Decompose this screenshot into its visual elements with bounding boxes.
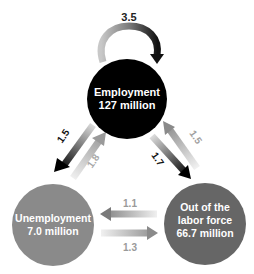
self-loop-arrow: [101, 26, 164, 64]
arrowhead-icon: [100, 207, 111, 221]
node-olf-value: 66.7 million: [176, 227, 233, 239]
node-employment-name: Employment: [94, 86, 160, 98]
flow-label-olf-to-u: 1.1: [123, 198, 137, 209]
flow-label-e-to-u: 1.5: [55, 127, 72, 145]
arrow-unemployment-to-olf: [101, 226, 158, 240]
labor-flow-diagram: 3.5 1.5 1.8 1.7 1.5 1.1 1.3 Employment 1…: [0, 0, 254, 274]
node-out-of-labor-force: Out of the labor force 66.7 million: [164, 183, 246, 265]
arrow-olf-to-unemployment: [100, 207, 157, 221]
node-olf-name-line2: labor force: [178, 214, 232, 226]
node-unemployment: Unemployment 7.0 million: [12, 184, 94, 266]
loop-arrowhead-icon: [150, 54, 164, 64]
flow-label-employment-self: 3.5: [121, 11, 136, 23]
flow-label-olf-to-e: 1.5: [187, 128, 204, 146]
node-employment-value: 127 million: [99, 99, 156, 111]
arrowhead-icon: [147, 226, 158, 240]
node-unemployment-name: Unemployment: [15, 212, 91, 224]
node-unemployment-value: 7.0 million: [27, 225, 78, 237]
flow-label-u-to-olf: 1.3: [123, 242, 137, 253]
node-olf-name-line1: Out of the: [180, 201, 230, 213]
node-employment: Employment 127 million: [87, 59, 167, 139]
arrow-olf-to-employment: [163, 121, 197, 168]
